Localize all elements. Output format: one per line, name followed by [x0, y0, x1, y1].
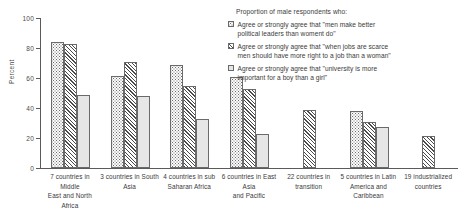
y-axis-title: Percent: [8, 59, 15, 84]
x-axis-label-line: 5 countries in Latin: [339, 172, 399, 182]
x-axis-label-line: East and North Africa: [40, 191, 100, 208]
x-axis-label: 7 countries in MiddleEast and North Afri…: [40, 172, 100, 208]
x-axis-label-line: transition: [279, 182, 339, 192]
legend-entry[interactable]: Agree or strongly agree that "men make b…: [228, 20, 472, 39]
x-axis-label-line: and Pacific: [219, 191, 279, 201]
x-axis-label-line: 6 countries in East Asia: [219, 172, 279, 191]
legend-entry[interactable]: Agree or strongly agree that "when jobs …: [228, 42, 472, 61]
y-tick-label: 80: [26, 45, 34, 52]
bar: [376, 127, 389, 168]
legend-label: Agree or strongly agree that "men make b…: [238, 20, 376, 39]
legend-swatch-icon: [228, 21, 234, 27]
x-axis-label-line: 22 countries in: [279, 172, 339, 182]
y-tick-label: 60: [26, 75, 34, 82]
x-axis-label-line: countries: [398, 182, 458, 192]
legend-swatch-icon: [228, 43, 234, 49]
legend-entry[interactable]: Agree or strongly agree that "university…: [228, 64, 472, 83]
x-axis-label-line: America and Caribbean: [339, 182, 399, 201]
x-axis-label-line: 4 countries in sub: [159, 172, 219, 182]
legend-entries: Agree or strongly agree that "men make b…: [228, 20, 472, 83]
bar: [51, 42, 64, 168]
y-tick-label: 0: [30, 165, 34, 172]
y-tick-mark: [36, 168, 40, 169]
bar: [137, 96, 150, 168]
legend-label-line: men should have more right to a job than…: [238, 51, 391, 60]
bar-group-bars: [40, 18, 100, 168]
x-axis-label-line: 19 industrialized: [398, 172, 458, 182]
x-axis-label: 5 countries in LatinAmerica and Caribbea…: [339, 172, 399, 201]
legend: Proportion of male respondents who: Agre…: [228, 8, 472, 86]
x-axis-label-line: 7 countries in Middle: [40, 172, 100, 191]
bar: [196, 119, 209, 169]
legend-label: Agree or strongly agree that "when jobs …: [238, 42, 391, 61]
x-axis-label-line: 3 countries in South: [100, 172, 160, 182]
legend-label-line: Agree or strongly agree that "when jobs …: [238, 42, 391, 51]
x-axis-labels: 7 countries in MiddleEast and North Afri…: [40, 172, 458, 206]
y-tick-label: 100: [23, 15, 34, 22]
bar-chart: Percent 020406080100 7 countries in Midd…: [0, 0, 474, 208]
bar: [124, 62, 137, 169]
x-axis-label: 6 countries in East Asiaand Pacific: [219, 172, 279, 201]
x-axis-label: 4 countries in subSaharan Africa: [159, 172, 219, 191]
bar: [243, 89, 256, 169]
legend-label-line: Agree or strongly agree that "men make b…: [238, 20, 376, 29]
bar: [256, 134, 269, 169]
bar: [170, 65, 183, 169]
bar: [422, 136, 435, 168]
bar-group: [100, 18, 160, 168]
legend-label-line: Agree or strongly agree that "university…: [238, 64, 378, 73]
legend-label-line: political leaders than woment do": [238, 29, 376, 38]
bar: [64, 44, 77, 168]
bar-group-bars: [100, 18, 160, 168]
x-axis-label: 22 countries intransition: [279, 172, 339, 191]
legend-label: Agree or strongly agree that "university…: [238, 64, 378, 83]
bar: [183, 86, 196, 169]
x-axis-label-line: Asia: [100, 182, 160, 192]
legend-title: Proportion of male respondents who:: [236, 8, 472, 15]
bar-group: [159, 18, 219, 168]
y-tick-label: 20: [26, 135, 34, 142]
x-axis-line: [40, 168, 458, 169]
x-axis-label: 3 countries in SouthAsia: [100, 172, 160, 191]
bar: [363, 122, 376, 169]
bar: [350, 111, 363, 168]
y-tick-label: 40: [26, 105, 34, 112]
bar: [230, 77, 243, 168]
x-axis-label-line: Saharan Africa: [159, 182, 219, 192]
bar-group: [40, 18, 100, 168]
bar: [111, 76, 124, 168]
legend-label-line: important for a boy than a girl": [238, 73, 378, 82]
legend-swatch-icon: [228, 65, 234, 71]
bar-group-bars: [159, 18, 219, 168]
x-axis-label: 19 industrializedcountries: [398, 172, 458, 191]
bar: [77, 95, 90, 169]
bar: [303, 110, 316, 169]
